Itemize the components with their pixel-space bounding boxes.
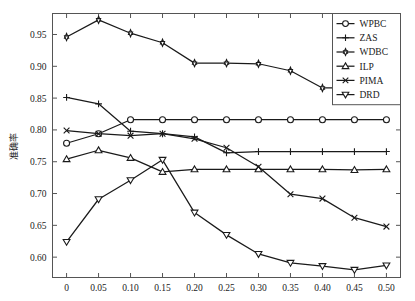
legend-label: PIMA: [360, 76, 384, 86]
x-tick-label: 0.10: [122, 283, 139, 293]
x-tick-label: 0.05: [90, 283, 107, 293]
y-tick-label: 0.75: [30, 157, 47, 167]
x-tick-label: 0.40: [314, 283, 331, 293]
data-point-circle: [192, 117, 198, 123]
data-point-circle: [343, 21, 349, 27]
y-tick-label: 0.65: [30, 221, 47, 231]
y-axis-title: 准确率: [8, 133, 19, 160]
y-tick-label: 0.60: [30, 253, 47, 263]
data-point-circle: [128, 117, 134, 123]
y-tick-label: 0.95: [30, 30, 47, 40]
data-point-circle: [287, 117, 293, 123]
y-axis-label: 准确率: [8, 133, 19, 160]
legend-label: ILP: [360, 62, 374, 72]
legend-label: WPBC: [360, 19, 387, 29]
legend-label: ZAS: [360, 33, 378, 43]
y-tick-label: 0.90: [30, 62, 47, 72]
legend-label: DRD: [360, 90, 380, 100]
legend-label: WDBC: [360, 47, 389, 57]
x-tick-label: 0.35: [282, 283, 299, 293]
data-point-circle: [224, 117, 230, 123]
x-tick-label: 0: [64, 283, 69, 293]
data-point-circle: [64, 140, 70, 146]
data-point-circle: [255, 117, 261, 123]
x-tick-label: 0.25: [218, 283, 235, 293]
y-tick-label: 0.70: [30, 189, 47, 199]
data-point-circle: [383, 117, 389, 123]
y-tick-label: 0.85: [30, 94, 47, 104]
x-tick-label: 0.15: [154, 283, 171, 293]
data-point-circle: [351, 117, 357, 123]
y-tick-label: 0.80: [30, 125, 47, 135]
x-tick-label: 0.20: [186, 283, 203, 293]
x-tick-label: 0.30: [250, 283, 267, 293]
x-tick-label: 0.50: [378, 283, 395, 293]
x-tick-label: 0.45: [346, 283, 363, 293]
accuracy-line-chart: 0.600.650.700.750.800.850.900.95 00.050.…: [0, 0, 415, 301]
data-point-circle: [319, 117, 325, 123]
data-point-circle: [160, 117, 166, 123]
chart-legend: WPBCZASWDBCILPPIMADRD: [333, 14, 401, 105]
